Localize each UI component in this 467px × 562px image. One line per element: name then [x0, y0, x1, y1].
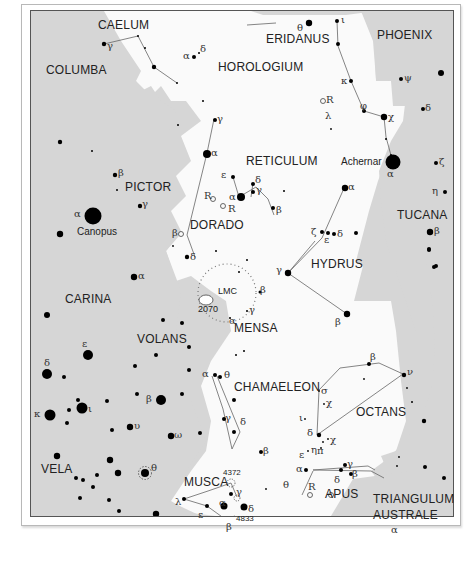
ngc2070-nebula-icon [199, 295, 213, 305]
star-map [30, 10, 454, 517]
star-map-svg [31, 11, 453, 516]
